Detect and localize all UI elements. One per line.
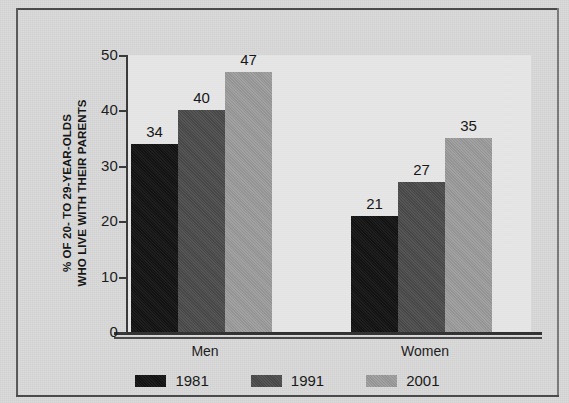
- x-axis-label-women: Women: [365, 343, 485, 359]
- bar-value-men-2001: 47: [213, 51, 284, 68]
- y-tick-30: [119, 166, 127, 168]
- bar-women-1991[interactable]: [398, 182, 445, 332]
- y-axis-label-0: 0: [82, 323, 118, 340]
- bar-men-2001[interactable]: [225, 72, 272, 332]
- bar-slot-women-1981: 21: [351, 55, 398, 332]
- chart-legend: 1981 1991 2001: [18, 372, 557, 389]
- page-frame-right-border: [557, 8, 559, 397]
- legend-item-1981[interactable]: 1981: [135, 372, 208, 389]
- x-axis-baseline-2: [114, 337, 542, 339]
- bar-chart: 50 40 30 20 10 0 % OF 20- TO 29-YEAR-OLD…: [18, 10, 557, 395]
- y-axis-title: % OF 20- TO 29-YEAR-OLDS WHO LIVE WITH T…: [60, 73, 90, 313]
- bar-slot-women-1991: 27: [398, 55, 445, 332]
- legend-item-1991[interactable]: 1991: [251, 372, 324, 389]
- legend-label-1991: 1991: [291, 372, 324, 389]
- legend-label-2001: 2001: [406, 372, 439, 389]
- bar-men-1991[interactable]: [178, 110, 225, 332]
- bar-slot-women-2001: 35: [445, 55, 492, 332]
- page-frame-bottom-border: [16, 395, 559, 397]
- x-axis-label-men: Men: [145, 343, 265, 359]
- bar-women-2001[interactable]: [445, 138, 492, 332]
- x-axis-baseline: [114, 332, 542, 335]
- y-axis-label-50: 50: [82, 46, 118, 63]
- y-tick-20: [119, 221, 127, 223]
- legend-item-2001[interactable]: 2001: [366, 372, 439, 389]
- scanned-chart-page: 50 40 30 20 10 0 % OF 20- TO 29-YEAR-OLD…: [0, 0, 569, 403]
- y-axis-title-line-2: WHO LIVE WITH THEIR PARENTS: [75, 73, 90, 313]
- bar-slot-men-2001: 47: [225, 55, 272, 332]
- bar-group-men: 34 40 47: [131, 55, 281, 332]
- legend-label-1981: 1981: [175, 372, 208, 389]
- bar-women-1981[interactable]: [351, 216, 398, 332]
- bar-slot-men-1991: 40: [178, 55, 225, 332]
- legend-swatch-1991: [251, 375, 282, 387]
- y-tick-10: [119, 277, 127, 279]
- y-tick-0: [119, 332, 127, 334]
- bar-value-women-2001: 35: [433, 117, 504, 134]
- legend-swatch-2001: [366, 375, 397, 387]
- y-tick-40: [119, 110, 127, 112]
- legend-swatch-1981: [135, 375, 166, 387]
- bar-men-1981[interactable]: [131, 144, 178, 332]
- y-tick-50: [119, 55, 127, 57]
- y-axis-line: [126, 55, 128, 333]
- bar-group-women: 21 27 35: [351, 55, 501, 332]
- y-axis-title-line-1: % OF 20- TO 29-YEAR-OLDS: [60, 73, 75, 313]
